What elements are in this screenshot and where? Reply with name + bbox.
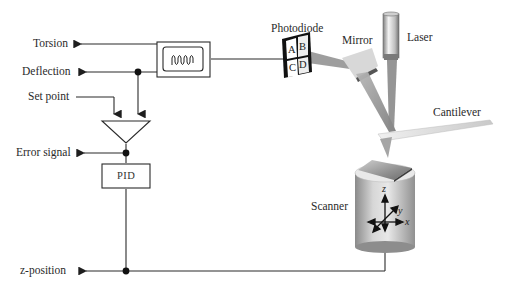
oscilloscope-block xyxy=(157,42,210,77)
z-position-label: z-position xyxy=(20,265,66,277)
photodiode xyxy=(282,32,312,78)
cantilever-label: Cantilever xyxy=(433,107,481,119)
mirror-label: Mirror xyxy=(342,35,373,47)
error-signal-label: Error signal xyxy=(16,147,71,159)
signal-lines xyxy=(76,44,385,271)
photodiode-label: Photodiode xyxy=(271,23,323,35)
quadrant-d-label: D xyxy=(299,59,307,70)
comparator-block xyxy=(102,121,150,143)
deflection-junction-dot xyxy=(135,69,142,76)
axis-x-label: x xyxy=(405,216,409,227)
quadrant-a-label: A xyxy=(288,44,296,55)
z-junction-dot xyxy=(123,268,130,275)
afm-diagram-canvas xyxy=(0,0,507,290)
deflection-label: Deflection xyxy=(22,66,71,78)
quadrant-c-label: C xyxy=(289,62,296,73)
set-point-label: Set point xyxy=(28,91,69,103)
laser-body xyxy=(383,14,399,58)
laser-label: Laser xyxy=(407,32,433,44)
pid-label: PID xyxy=(117,170,135,181)
axis-y-label: y xyxy=(398,205,402,216)
cantilever xyxy=(378,120,493,158)
scanner xyxy=(355,160,415,253)
torsion-label: Torsion xyxy=(33,38,68,50)
quadrant-b-label: B xyxy=(299,41,306,52)
error-junction-dot xyxy=(123,150,130,157)
scanner-label: Scanner xyxy=(311,201,348,213)
axis-z-label: z xyxy=(382,183,386,194)
